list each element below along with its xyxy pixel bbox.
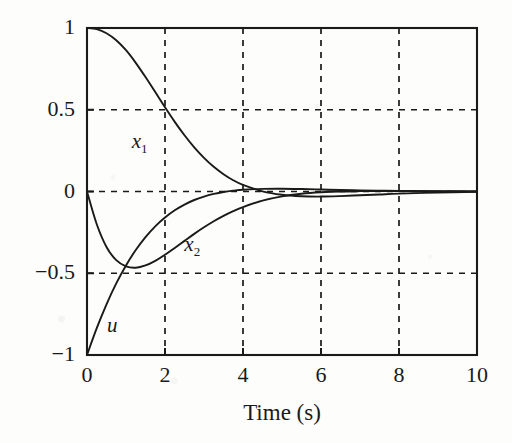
curve-label-x2: x2 <box>184 234 200 258</box>
x-tick-label: 6 <box>291 364 351 386</box>
curve-label-x1: x1 <box>132 131 148 155</box>
series-x1 <box>87 28 477 197</box>
y-tick-label: −1 <box>0 343 75 365</box>
x-tick-label: 4 <box>213 364 273 386</box>
series-x2 <box>87 191 477 268</box>
x-tick-label: 2 <box>135 364 195 386</box>
x-tick-label: 0 <box>57 364 117 386</box>
y-tick-label: 0 <box>0 180 75 202</box>
x-axis-title: Time (s) <box>182 401 382 424</box>
y-tick-label: −0.5 <box>0 261 75 283</box>
y-tick-label: 1 <box>0 16 75 38</box>
x-tick-label: 8 <box>369 364 429 386</box>
chart-figure: 1 0.5 0 −0.5 −1 0 2 4 6 8 10 Time (s) x1… <box>0 0 512 443</box>
curve-label-u: u <box>107 315 118 336</box>
x-tick-label: 10 <box>447 364 507 386</box>
y-tick-label: 0.5 <box>0 98 75 120</box>
series-u <box>87 189 477 355</box>
